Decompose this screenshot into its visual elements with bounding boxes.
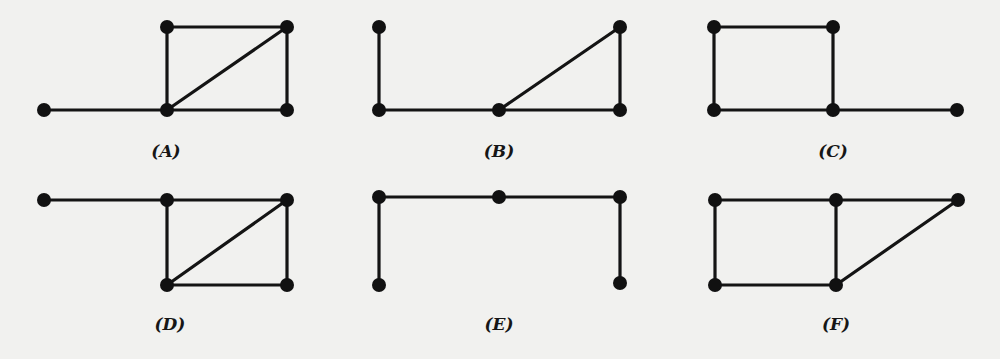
graph-node [280, 103, 294, 117]
graph-node [708, 193, 722, 207]
graph-nodes [707, 20, 964, 117]
graph-edge [499, 27, 620, 110]
graph-node [613, 103, 627, 117]
graph-nodes [372, 20, 627, 117]
graph-D: (D) [37, 193, 294, 334]
graph-node [951, 193, 965, 207]
graph-node [829, 278, 843, 292]
graph-label: (B) [484, 141, 514, 161]
graph-node [707, 20, 721, 34]
graph-node [613, 276, 627, 290]
graph-node [826, 103, 840, 117]
graph-edges [379, 27, 620, 110]
graph-edges [714, 27, 957, 110]
graph-node [950, 103, 964, 117]
graph-edge [836, 200, 958, 285]
graph-label: (E) [484, 314, 513, 334]
graph-edge [167, 200, 287, 285]
graph-node [826, 20, 840, 34]
graph-A: (A) [37, 20, 294, 161]
graph-label: (F) [822, 314, 850, 334]
graph-node [707, 103, 721, 117]
graph-node [708, 278, 722, 292]
graph-edge [167, 27, 287, 110]
graph-node [280, 193, 294, 207]
graph-node [160, 193, 174, 207]
graph-node [372, 190, 386, 204]
graph-node [492, 103, 506, 117]
graph-label: (A) [151, 141, 180, 161]
graph-edges [44, 200, 287, 285]
graph-F: (F) [708, 193, 965, 334]
graph-B: (B) [372, 20, 627, 161]
graph-label: (C) [818, 141, 848, 161]
graph-node [37, 103, 51, 117]
graph-node [613, 20, 627, 34]
graph-node [372, 278, 386, 292]
graph-node [37, 193, 51, 207]
graph-node [160, 278, 174, 292]
graph-node [280, 20, 294, 34]
graph-node [280, 278, 294, 292]
graph-E: (E) [372, 190, 627, 334]
graph-edges [379, 197, 620, 285]
graph-figure: (A) (B) (C) (D) (E) (F) [0, 0, 1000, 359]
graph-node [160, 103, 174, 117]
graph-node [829, 193, 843, 207]
graph-node [160, 20, 174, 34]
graph-node [372, 103, 386, 117]
graph-node [613, 190, 627, 204]
graph-edges [44, 27, 287, 110]
graph-node [492, 190, 506, 204]
graph-edges [715, 200, 958, 285]
graph-nodes [372, 190, 627, 292]
graph-label: (D) [155, 314, 186, 334]
graph-node [372, 20, 386, 34]
graph-C: (C) [707, 20, 964, 161]
